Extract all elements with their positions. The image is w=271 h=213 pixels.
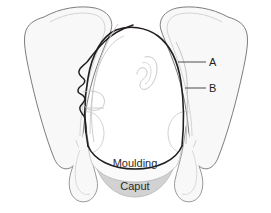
figure-container: A B Moulding Caput <box>0 0 271 213</box>
label-a: A <box>209 56 217 68</box>
label-moulding: Moulding <box>113 157 158 169</box>
fetal-pelvis-diagram: A B Moulding Caput <box>0 0 271 213</box>
label-caput: Caput <box>120 180 149 192</box>
label-b: B <box>209 82 216 94</box>
